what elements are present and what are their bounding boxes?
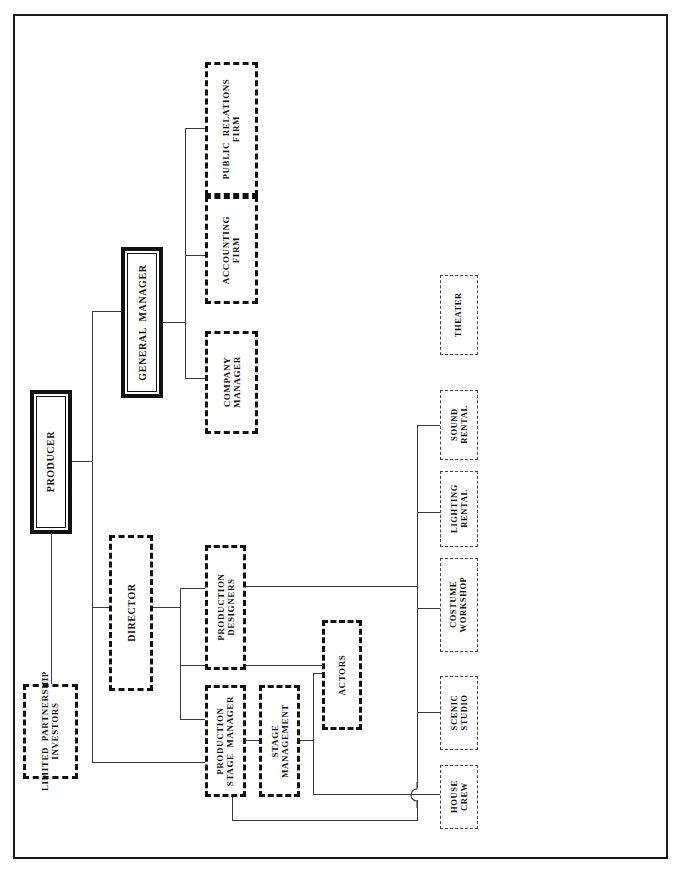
node-company-manager[interactable]: COMPANY MANAGER xyxy=(205,331,258,434)
node-theater[interactable]: THEATER xyxy=(440,275,478,355)
node-production-designers[interactable]: PRODUCTION DESIGNERS xyxy=(205,545,246,670)
node-producer[interactable]: PRODUCER xyxy=(30,390,72,534)
connector-stage-management-stub xyxy=(299,740,314,741)
connector-stage-management-to-house-crew xyxy=(313,794,418,795)
connector-vendor-to-lighting-rental xyxy=(417,512,441,513)
connector-psm-bottom-run xyxy=(232,820,418,821)
connector-director-to-production-designers xyxy=(180,588,206,589)
node-stage-management-label: STAGE MANAGEMENT xyxy=(269,704,289,778)
connector-vendor-to-house-crew xyxy=(417,794,441,795)
connector-psm-down-stub xyxy=(232,797,233,821)
node-costume-workshop[interactable]: COSTUME WORKSHOP xyxy=(440,558,478,652)
connector-vendor-trunk-upper xyxy=(417,425,418,788)
node-sound-rental[interactable]: SOUND RENTAL xyxy=(440,390,478,460)
node-house-crew-label: HOUSE CREW xyxy=(449,781,468,814)
node-accounting-firm[interactable]: ACCOUNTING FIRM xyxy=(205,196,258,304)
connector-producer-to-investors xyxy=(51,533,52,685)
org-chart-page: PRODUCER LIMITED PARTNERSHIP INVESTORS G… xyxy=(0,0,682,875)
node-stage-management[interactable]: STAGE MANAGEMENT xyxy=(259,685,300,797)
connector-director-trunk xyxy=(180,588,181,719)
connector-stage-management-trunk xyxy=(313,673,314,794)
node-actors[interactable]: ACTORS xyxy=(322,620,362,730)
connector-producer-stub xyxy=(71,461,93,462)
connector-producer-to-general-manager xyxy=(92,311,122,312)
node-scenic-studio-label: SCENIC STUDIO xyxy=(449,695,468,731)
connector-vendor-to-sound-rental xyxy=(417,425,441,426)
node-house-crew[interactable]: HOUSE CREW xyxy=(440,765,478,829)
connector-director-stub xyxy=(152,607,181,608)
connector-director-to-actors xyxy=(180,665,323,666)
node-production-stage-manager[interactable]: PRODUCTION STAGE MANAGER xyxy=(205,685,246,797)
node-accounting-firm-label: ACCOUNTING FIRM xyxy=(221,216,241,285)
line-hop-icon xyxy=(405,782,431,808)
node-company-manager-label: COMPANY MANAGER xyxy=(221,357,241,409)
node-limited-partnership-investors-label: LIMITED PARTNERSHIP INVESTORS xyxy=(40,671,60,791)
connector-general-manager-trunk xyxy=(185,128,186,379)
node-actors-label: ACTORS xyxy=(337,655,347,696)
node-limited-partnership-investors[interactable]: LIMITED PARTNERSHIP INVESTORS xyxy=(23,684,78,779)
node-sound-rental-label: SOUND RENTAL xyxy=(449,406,468,444)
connector-director-to-production-stage-manager xyxy=(180,719,206,720)
connector-gm-to-accounting-firm xyxy=(185,255,205,256)
node-scenic-studio[interactable]: SCENIC STUDIO xyxy=(440,676,478,750)
connector-gm-to-public-relations-firm xyxy=(185,128,205,129)
node-director-label: DIRECTOR xyxy=(125,584,136,643)
connector-general-manager-stub xyxy=(162,322,186,323)
connector-vendor-to-costume-workshop xyxy=(417,608,441,609)
node-public-relations-firm-label: PUBLIC RELATIONS FIRM xyxy=(221,78,241,179)
connector-gm-to-company-manager xyxy=(185,378,205,379)
node-lighting-rental-label: LIGHTING RENTAL xyxy=(449,485,468,534)
connector-producer-to-production-stage-manager xyxy=(92,762,205,763)
node-director[interactable]: DIRECTOR xyxy=(109,535,153,691)
node-costume-workshop-label: COSTUME WORKSHOP xyxy=(449,577,468,633)
node-general-manager-label: GENERAL MANAGER xyxy=(136,264,147,380)
node-production-stage-manager-label: PRODUCTION STAGE MANAGER xyxy=(215,696,235,786)
node-theater-label: THEATER xyxy=(454,292,464,337)
page-border xyxy=(13,14,668,859)
node-production-designers-label: PRODUCTION DESIGNERS xyxy=(215,574,235,642)
connector-vendor-to-scenic-studio xyxy=(417,712,441,713)
connector-producer-to-director xyxy=(92,607,109,608)
node-public-relations-firm[interactable]: PUBLIC RELATIONS FIRM xyxy=(205,62,258,196)
connector-production-designers-to-vendors xyxy=(245,586,418,587)
node-lighting-rental[interactable]: LIGHTING RENTAL xyxy=(440,471,478,547)
node-general-manager[interactable]: GENERAL MANAGER xyxy=(121,247,163,398)
node-producer-label: PRODUCER xyxy=(45,431,56,492)
connector-producer-trunk xyxy=(92,311,93,763)
